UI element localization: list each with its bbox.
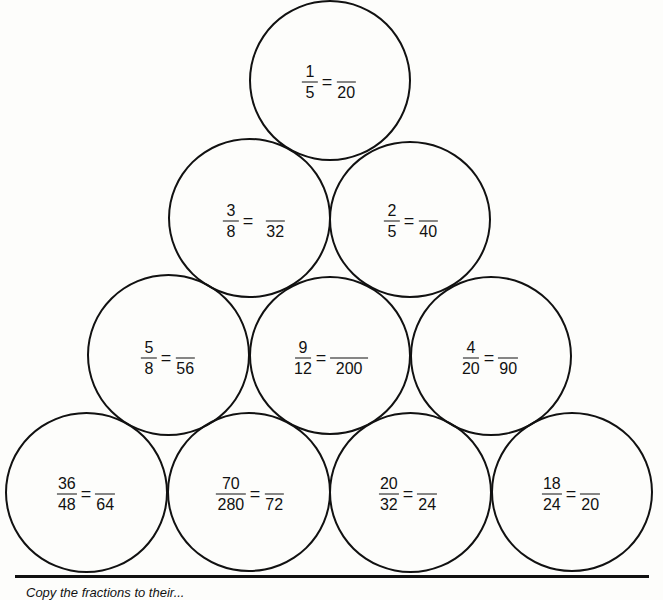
target-fraction: __ 90 — [498, 340, 518, 377]
answer-blank[interactable]: __ — [95, 476, 115, 495]
numerator: 3 — [223, 203, 239, 222]
denominator: 24 — [543, 495, 561, 513]
denominator: 5 — [387, 222, 396, 240]
given-fraction: 2 5 — [384, 203, 400, 240]
numerator: 5 — [141, 340, 157, 359]
answer-blank[interactable]: __ — [580, 476, 600, 495]
target-fraction: __ 64 — [95, 476, 115, 513]
equation-r1-c1: 1 5 = __ 20 — [302, 64, 356, 101]
target-fraction: __ 32 — [265, 203, 285, 240]
target-denominator: 64 — [96, 495, 114, 513]
equals-sign: = — [316, 348, 327, 366]
numerator: 18 — [542, 476, 562, 495]
target-fraction: __ 40 — [418, 203, 438, 240]
denominator: 48 — [58, 495, 76, 513]
denominator: 8 — [144, 359, 153, 377]
denominator: 12 — [294, 359, 312, 377]
target-denominator: 200 — [336, 359, 363, 377]
given-fraction: 9 12 — [294, 340, 312, 377]
answer-blank[interactable]: __ — [498, 340, 518, 359]
answer-blank[interactable]: __ — [418, 203, 438, 222]
equals-sign: = — [403, 484, 414, 502]
target-denominator: 32 — [266, 222, 284, 240]
equals-sign: = — [404, 211, 415, 229]
equation-r3-c1: 5 8 = __ 56 — [141, 340, 195, 377]
equals-sign: = — [566, 484, 577, 502]
equals-sign: = — [250, 484, 261, 502]
denominator: 8 — [226, 222, 235, 240]
equation-r4-c3: 20 32 = __ 24 — [379, 476, 437, 513]
denominator: 32 — [380, 495, 398, 513]
target-denominator: 20 — [337, 83, 355, 101]
answer-blank[interactable]: __ — [264, 476, 284, 495]
denominator: 5 — [305, 83, 314, 101]
target-denominator: 56 — [176, 359, 194, 377]
answer-blank[interactable]: __ — [336, 64, 356, 83]
target-denominator: 90 — [499, 359, 517, 377]
target-fraction: __ 20 — [580, 476, 600, 513]
target-denominator: 72 — [265, 495, 283, 513]
given-fraction: 3 8 — [223, 203, 239, 240]
denominator: 20 — [462, 359, 480, 377]
given-fraction: 5 8 — [141, 340, 157, 377]
denominator: 280 — [217, 495, 244, 513]
footer-caption: Copy the fractions to their... — [26, 585, 184, 600]
equation-r4-c2: 70 280 = __ 72 — [216, 476, 284, 513]
answer-blank[interactable]: __ — [417, 476, 437, 495]
numerator: 70 — [216, 476, 246, 495]
numerator: 20 — [379, 476, 399, 495]
given-fraction: 70 280 — [216, 476, 246, 513]
target-denominator: 20 — [581, 495, 599, 513]
given-fraction: 20 32 — [379, 476, 399, 513]
equals-sign: = — [484, 348, 495, 366]
target-fraction: __ 72 — [264, 476, 284, 513]
equals-sign: = — [322, 72, 333, 90]
equation-r2-c1: 3 8 = __ 32 — [223, 203, 285, 240]
equation-r3-c2: 9 12 = ____ 200 — [294, 340, 368, 377]
given-fraction: 1 5 — [302, 64, 318, 101]
given-fraction: 36 48 — [57, 476, 77, 513]
target-fraction: __ 24 — [417, 476, 437, 513]
answer-blank[interactable]: __ — [265, 203, 285, 222]
numerator: 4 — [463, 340, 479, 359]
target-fraction: __ 56 — [175, 340, 195, 377]
numerator: 36 — [57, 476, 77, 495]
equation-r3-c3: 4 20 = __ 90 — [462, 340, 518, 377]
equation-r4-c1: 36 48 = __ 64 — [57, 476, 115, 513]
given-fraction: 18 24 — [542, 476, 562, 513]
equation-r4-c4: 18 24 = __ 20 — [542, 476, 600, 513]
numerator: 1 — [302, 64, 318, 83]
footer-rule — [15, 575, 649, 578]
equals-sign: = — [81, 484, 92, 502]
target-denominator: 24 — [418, 495, 436, 513]
numerator: 2 — [384, 203, 400, 222]
target-fraction: __ 20 — [336, 64, 356, 101]
answer-blank[interactable]: __ — [175, 340, 195, 359]
target-fraction: ____ 200 — [330, 340, 368, 377]
given-fraction: 4 20 — [462, 340, 480, 377]
target-denominator: 40 — [419, 222, 437, 240]
answer-blank[interactable]: ____ — [330, 340, 368, 359]
equals-sign: = — [161, 348, 172, 366]
equation-r2-c2: 2 5 = __ 40 — [384, 203, 438, 240]
equals-sign: = — [243, 211, 254, 229]
numerator: 9 — [295, 340, 311, 359]
